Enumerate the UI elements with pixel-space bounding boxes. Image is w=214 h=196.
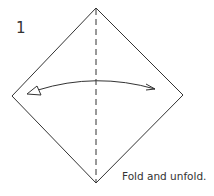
origami-diagram	[0, 0, 214, 196]
step-number: 1	[16, 21, 26, 36]
step-caption: Fold and unfold.	[122, 170, 206, 182]
paper-square	[12, 8, 183, 183]
